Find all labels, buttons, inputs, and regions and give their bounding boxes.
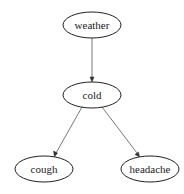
edge-weather-cold [90, 38, 94, 82]
node-label: headache [130, 163, 171, 175]
arrowhead-icon [135, 152, 140, 157]
node-cough[interactable]: cough [15, 156, 73, 182]
node-label: weather [75, 19, 110, 31]
node-label: cough [31, 163, 58, 175]
node-headache[interactable]: headache [121, 156, 179, 182]
edge-cold-cough [54, 107, 83, 157]
graph-canvas: weather cold cough headache [0, 0, 184, 194]
arrowhead-icon [90, 77, 94, 82]
node-label: cold [83, 89, 102, 101]
edge-cold-headache [102, 107, 140, 157]
node-cold[interactable]: cold [63, 82, 121, 108]
node-weather[interactable]: weather [63, 12, 121, 38]
